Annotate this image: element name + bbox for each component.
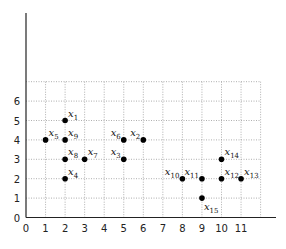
data-point: x10 xyxy=(165,166,185,182)
point-marker xyxy=(199,195,205,201)
x-tick-label: 5 xyxy=(121,223,127,234)
data-points: x1x2x3x4x5x6x7x8x9x10x11x12x13x14x15 xyxy=(43,108,259,216)
y-tick-label: 6 xyxy=(14,96,20,107)
data-point: x3 xyxy=(111,146,127,162)
point-marker xyxy=(219,157,225,163)
x-tick-label: 1 xyxy=(42,223,48,234)
point-marker xyxy=(238,176,244,182)
y-tick-label: 4 xyxy=(14,135,20,146)
x-tick-label: 8 xyxy=(179,223,185,234)
data-point: x4 xyxy=(62,166,78,182)
x-tick-label: 10 xyxy=(215,223,228,234)
y-tick-label: 5 xyxy=(14,116,20,127)
point-marker xyxy=(43,137,49,143)
point-label: x8 xyxy=(68,146,78,160)
point-label: x2 xyxy=(130,127,140,141)
y-tick-label: 3 xyxy=(14,154,20,165)
point-label: x1 xyxy=(68,108,78,122)
point-label: x4 xyxy=(68,166,79,180)
point-label: x5 xyxy=(49,127,59,141)
data-point: x8 xyxy=(62,146,78,162)
point-marker xyxy=(180,176,186,182)
y-tick-label: 1 xyxy=(14,193,20,204)
x-tick-label: 6 xyxy=(140,223,146,234)
x-tick-label: 9 xyxy=(199,223,205,234)
y-tick-label: 2 xyxy=(14,174,20,185)
point-label: x3 xyxy=(111,146,121,160)
point-marker xyxy=(141,137,147,143)
point-label: x9 xyxy=(68,127,78,141)
data-point: x9 xyxy=(62,127,78,143)
point-marker xyxy=(82,157,88,163)
point-label: x12 xyxy=(225,166,240,180)
x-tick-label: 11 xyxy=(235,223,248,234)
x-tick-label: 4 xyxy=(101,223,107,234)
axes xyxy=(26,13,276,218)
scatter-plot: 012345678910110123456 x1x2x3x4x5x6x7x8x9… xyxy=(0,0,286,249)
point-marker xyxy=(62,176,68,182)
point-marker xyxy=(121,137,127,143)
point-label: x15 xyxy=(204,201,219,215)
point-marker xyxy=(121,157,127,163)
x-tick-label: 0 xyxy=(23,223,29,234)
data-point: x5 xyxy=(43,127,59,143)
point-label: x14 xyxy=(225,146,240,160)
point-marker xyxy=(219,176,225,182)
y-tick-label: 0 xyxy=(14,213,20,224)
point-marker xyxy=(62,137,68,143)
data-point: x2 xyxy=(130,127,146,143)
point-marker xyxy=(62,118,68,124)
point-marker xyxy=(62,157,68,163)
x-tick-label: 2 xyxy=(62,223,68,234)
data-point: x7 xyxy=(82,146,98,162)
point-marker xyxy=(199,176,205,182)
point-label: x13 xyxy=(244,166,259,180)
x-tick-label: 3 xyxy=(81,223,87,234)
data-point: x12 xyxy=(219,166,239,182)
point-label: x6 xyxy=(111,127,122,141)
point-label: x10 xyxy=(165,166,180,180)
data-point: x6 xyxy=(111,127,127,143)
data-point: x1 xyxy=(62,108,78,124)
point-label: x7 xyxy=(88,146,98,160)
data-point: x11 xyxy=(184,166,204,182)
x-tick-label: 7 xyxy=(160,223,166,234)
data-point: x13 xyxy=(238,166,258,182)
point-label: x11 xyxy=(184,166,199,180)
